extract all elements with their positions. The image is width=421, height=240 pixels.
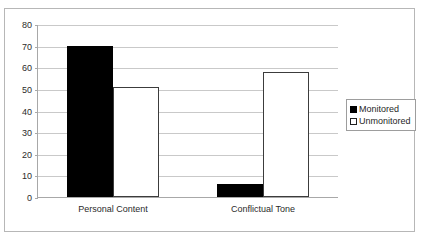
y-axis-tick	[35, 90, 38, 91]
bar-monitored-conflictual-tone	[217, 184, 263, 197]
x-axis-label: Conflictual Tone	[231, 204, 295, 214]
y-axis-label: 30	[22, 129, 32, 138]
legend-swatch-unmonitored-icon	[350, 118, 357, 125]
y-axis-label: 80	[22, 21, 32, 30]
y-axis-label: 20	[22, 150, 32, 159]
y-axis-tick	[35, 176, 38, 177]
y-axis-tick	[35, 47, 38, 48]
bar-monitored-personal-content	[67, 46, 113, 197]
gridline	[38, 25, 338, 26]
bar-unmonitored-personal-content	[113, 87, 159, 197]
plot-area: 01020304050607080 Personal ContentConfli…	[37, 25, 337, 198]
chart-title-clip	[5, 0, 416, 9]
y-axis-tick	[35, 198, 38, 199]
y-axis-label: 50	[22, 85, 32, 94]
y-axis-tick	[35, 155, 38, 156]
chart-legend: MonitoredUnmonitored	[346, 99, 416, 131]
gridline	[38, 197, 338, 198]
chart-frame: 01020304050607080 Personal ContentConfli…	[4, 8, 415, 232]
x-axis-label: Personal Content	[78, 204, 148, 214]
y-axis-label: 40	[22, 107, 32, 116]
legend-item-unmonitored[interactable]: Unmonitored	[350, 115, 411, 127]
bar-unmonitored-conflictual-tone	[263, 72, 309, 197]
y-axis-tick	[35, 133, 38, 134]
legend-label: Unmonitored	[359, 116, 411, 126]
y-axis-tick	[35, 68, 38, 69]
y-axis-label: 10	[22, 172, 32, 181]
y-axis-tick	[35, 25, 38, 26]
y-axis-tick	[35, 112, 38, 113]
y-axis-label: 0	[27, 194, 32, 203]
y-axis-label: 70	[22, 42, 32, 51]
legend-label: Monitored	[359, 104, 399, 114]
legend-item-monitored[interactable]: Monitored	[350, 103, 411, 115]
y-axis-label: 60	[22, 64, 32, 73]
legend-swatch-monitored-icon	[350, 106, 357, 113]
